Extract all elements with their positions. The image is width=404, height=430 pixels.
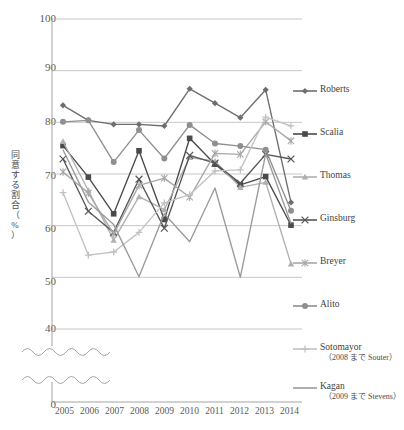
data-point-marker — [60, 102, 66, 108]
data-point-marker — [111, 211, 117, 217]
data-point-marker — [86, 174, 92, 180]
legend-item-ginsburg[interactable]: Ginsburg — [292, 213, 355, 227]
data-point-marker — [136, 148, 142, 154]
x-tick-2012: 2012 — [227, 406, 252, 416]
data-point-marker — [302, 346, 309, 353]
legend-item-scalia[interactable]: Scalia — [292, 127, 343, 141]
series-thomas — [60, 138, 294, 266]
data-point-marker — [60, 156, 67, 163]
triangle-icon — [292, 170, 318, 184]
data-point-marker — [85, 208, 92, 215]
data-point-marker — [111, 159, 117, 165]
x-tick-2007: 2007 — [102, 406, 127, 416]
x-tick-2008: 2008 — [127, 406, 152, 416]
legend-sublabel: （2008 まで Souter） — [318, 353, 397, 363]
series-line — [63, 117, 291, 255]
data-point-marker — [85, 117, 91, 123]
series-line — [63, 89, 291, 203]
legend-item-roberts[interactable]: Roberts — [292, 84, 350, 98]
x-tick-2013: 2013 — [252, 406, 277, 416]
series-line — [63, 150, 291, 278]
legend-label: Scalia — [318, 127, 343, 138]
data-point-marker — [237, 166, 244, 173]
x-axis-ticks: 2005200620072008200920102011201220132014 — [52, 406, 302, 416]
legend-label: Ginsburg — [318, 213, 355, 224]
asterisk-icon — [292, 256, 318, 270]
data-point-marker — [263, 174, 269, 180]
data-point-marker — [187, 122, 193, 128]
series-kagan — [63, 150, 291, 278]
data-point-marker — [302, 131, 308, 137]
series-ginsburg — [60, 151, 295, 236]
legend-item-sotomayor[interactable]: Sotomayor（2008 まで Souter） — [292, 342, 397, 363]
x-tick-2005: 2005 — [52, 406, 77, 416]
data-point-marker — [60, 168, 66, 176]
x-tick-2011: 2011 — [202, 406, 227, 416]
square-icon — [292, 127, 318, 141]
legend-label: Sotomayor — [318, 342, 397, 353]
series-line — [63, 142, 291, 264]
none-icon — [292, 381, 318, 395]
data-point-marker — [110, 237, 116, 243]
legend-label: Roberts — [318, 84, 350, 95]
data-point-marker — [302, 303, 308, 309]
x-tick-2010: 2010 — [177, 406, 202, 416]
data-point-marker — [302, 88, 308, 94]
data-point-marker — [136, 127, 142, 133]
diamond-icon — [292, 84, 318, 98]
circle-icon — [292, 299, 318, 313]
legend-item-breyer[interactable]: Breyer — [292, 256, 346, 270]
data-point-marker — [161, 206, 167, 212]
data-point-marker — [136, 194, 142, 200]
legend-label: Thomas — [318, 170, 351, 181]
cross-x-icon — [292, 213, 318, 227]
legend-label: Kagan — [318, 381, 401, 392]
legend-label: Alito — [318, 299, 340, 310]
legend-item-alito[interactable]: Alito — [292, 299, 340, 313]
x-tick-2014: 2014 — [277, 406, 302, 416]
plus-icon — [292, 342, 318, 356]
data-point-marker — [60, 119, 66, 125]
x-tick-2006: 2006 — [77, 406, 102, 416]
data-point-marker — [237, 143, 243, 149]
data-point-marker — [136, 176, 143, 183]
axis-break-squiggle — [22, 349, 110, 356]
data-point-marker — [263, 147, 269, 153]
chart-page: 同意する割合（%） 100 90 80 70 60 50 40 0 200520… — [0, 0, 404, 430]
legend-sublabel: （2009 まで Stevens） — [318, 392, 401, 402]
axis-break-squiggle — [22, 377, 110, 384]
data-point-marker — [187, 136, 193, 142]
series-line — [63, 154, 291, 232]
data-point-marker — [60, 138, 66, 144]
data-point-marker — [212, 100, 218, 106]
data-point-marker — [60, 189, 67, 196]
legend-item-kagan[interactable]: Kagan（2009 まで Stevens） — [292, 381, 401, 402]
legend-label: Breyer — [318, 256, 346, 267]
series-line — [63, 138, 291, 225]
series-scalia — [60, 136, 294, 228]
data-point-marker — [85, 252, 92, 259]
x-tick-2009: 2009 — [152, 406, 177, 416]
data-point-marker — [161, 156, 167, 162]
data-point-marker — [212, 141, 218, 147]
legend-item-thomas[interactable]: Thomas — [292, 170, 351, 184]
